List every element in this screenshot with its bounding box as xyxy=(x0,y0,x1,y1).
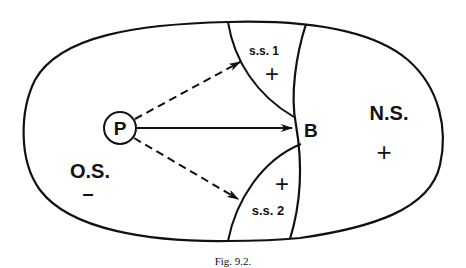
dashed-arrow-p-to-ss1 xyxy=(135,62,240,119)
ns-region-label: N.S. xyxy=(370,102,409,124)
ns-region-sign: + xyxy=(376,137,391,167)
ss1-region-label: s.s. 1 xyxy=(249,44,279,58)
figure-caption: Fig. 9.2. xyxy=(215,255,252,267)
os-region-label: O.S. xyxy=(70,160,110,182)
outer-boundary xyxy=(24,22,443,241)
ss2-region-sign: + xyxy=(275,170,289,197)
os-region-sign: – xyxy=(82,182,93,204)
ss2-boundary xyxy=(228,144,301,241)
ss1-boundary xyxy=(228,22,294,117)
dashed-arrow-p-to-ss2 xyxy=(134,138,238,199)
b-node-label: B xyxy=(304,120,318,141)
ss2-region-label: s.s. 2 xyxy=(252,203,285,218)
ss1-region-sign: + xyxy=(265,60,279,87)
diagram-figure: P B N.S. + O.S. – s.s. 1 + s.s. 2 + Fig.… xyxy=(0,0,466,268)
p-node-label: P xyxy=(114,118,127,139)
